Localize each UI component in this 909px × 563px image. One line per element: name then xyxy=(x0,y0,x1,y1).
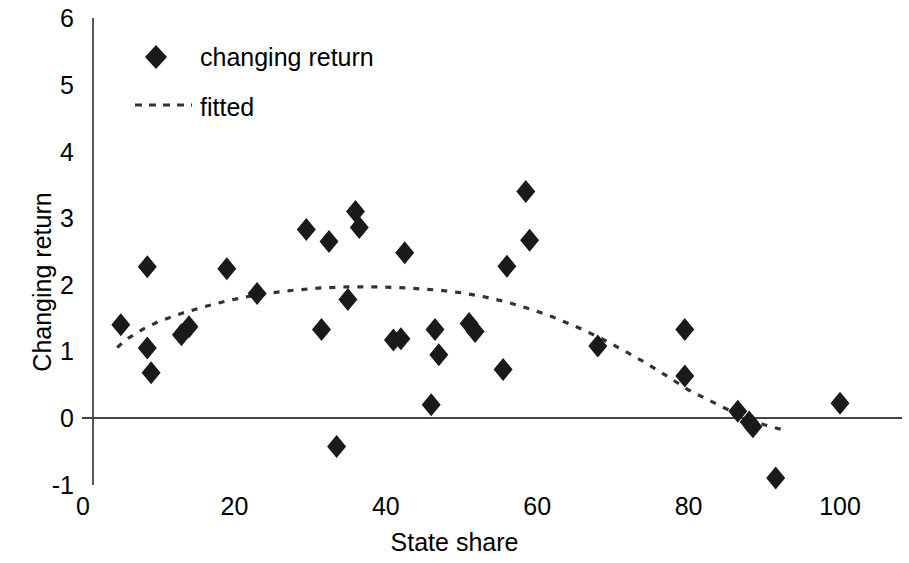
y-axis-title: Changing return xyxy=(28,132,57,432)
data-point-marker xyxy=(327,435,346,458)
chart-container: 6543210-1 020406080100 Changing return S… xyxy=(0,0,909,563)
axis-lines xyxy=(82,18,902,485)
data-point-marker xyxy=(429,343,448,366)
legend-label-fitted: fitted xyxy=(200,95,254,120)
data-point-marker xyxy=(588,335,607,358)
data-point-marker xyxy=(138,255,157,278)
data-point-marker xyxy=(217,257,236,280)
data-point-marker xyxy=(516,180,535,203)
data-point-marker xyxy=(138,337,157,360)
legend-label-changing-return: changing return xyxy=(200,45,374,70)
data-point-marker xyxy=(297,218,316,241)
scatter-plot-canvas xyxy=(0,0,909,563)
data-point-marker xyxy=(831,392,850,415)
data-point-marker xyxy=(248,282,267,305)
data-point-marker xyxy=(426,318,445,341)
data-point-marker xyxy=(494,358,513,381)
data-point-marker xyxy=(395,241,414,264)
x-tick-80: 80 xyxy=(675,494,703,519)
data-points-group xyxy=(111,180,849,489)
data-point-marker xyxy=(675,318,694,341)
y-tick-neg1: -1 xyxy=(14,472,74,497)
x-tick-60: 60 xyxy=(523,494,551,519)
fitted-curve-path xyxy=(117,287,783,430)
legend-marks xyxy=(135,45,192,105)
x-axis-title: State share xyxy=(0,528,909,557)
data-point-marker xyxy=(766,466,785,489)
y-tick-5: 5 xyxy=(14,73,74,98)
data-point-marker xyxy=(142,361,161,384)
data-point-marker xyxy=(111,313,130,336)
x-tick-0: 0 xyxy=(76,494,90,519)
data-point-marker xyxy=(320,230,339,253)
data-point-marker xyxy=(422,393,441,416)
x-tick-40: 40 xyxy=(372,494,400,519)
legend-diamond-icon xyxy=(145,45,167,69)
data-point-marker xyxy=(497,255,516,278)
x-tick-100: 100 xyxy=(819,494,861,519)
data-point-marker xyxy=(338,288,357,311)
data-point-marker xyxy=(520,229,539,252)
data-point-marker xyxy=(312,318,331,341)
fitted-curve xyxy=(117,287,783,430)
y-tick-6: 6 xyxy=(14,6,74,31)
x-tick-20: 20 xyxy=(220,494,248,519)
